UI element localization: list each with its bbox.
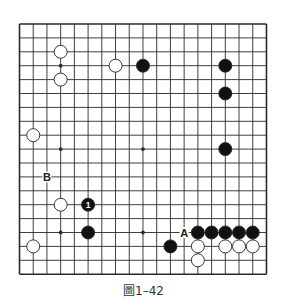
black-stone [136, 59, 149, 72]
star-point [141, 147, 145, 151]
star-point [59, 231, 63, 235]
figure-caption: 圖1–42 [0, 281, 287, 298]
white-stone [54, 45, 67, 58]
move-number: 1 [86, 200, 91, 210]
marker-a: A [180, 227, 188, 239]
go-board: 1 BA [0, 0, 287, 280]
star-point [59, 64, 63, 68]
white-stone [27, 129, 40, 142]
marker-b: B [43, 171, 51, 183]
star-point [141, 231, 145, 235]
white-stone [191, 240, 204, 253]
black-stone [191, 226, 204, 239]
black-stone [219, 59, 232, 72]
black-stone [164, 240, 177, 253]
black-stone [219, 87, 232, 100]
black-stone [219, 143, 232, 156]
black-stone [219, 226, 232, 239]
white-stone [27, 240, 40, 253]
black-stone [246, 226, 259, 239]
black-stone [205, 226, 218, 239]
black-stone [233, 226, 246, 239]
white-stone [54, 198, 67, 211]
black-stone [82, 226, 95, 239]
white-stone [233, 240, 246, 253]
black-stone: 1 [82, 198, 95, 211]
white-stone [109, 59, 122, 72]
white-stone [246, 240, 259, 253]
white-stone [191, 254, 204, 267]
star-point [59, 147, 63, 151]
white-stone [54, 73, 67, 86]
white-stone [219, 240, 232, 253]
